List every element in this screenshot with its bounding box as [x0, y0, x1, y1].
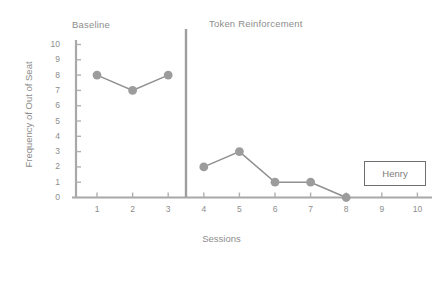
data-series	[93, 71, 351, 202]
y-tick-label: 7	[44, 86, 60, 95]
x-tick-label: 1	[89, 205, 105, 214]
data-point-marker	[342, 193, 351, 202]
y-tick-label: 3	[44, 147, 60, 156]
series-line	[204, 152, 346, 198]
x-tick-label: 5	[231, 205, 247, 214]
y-tick-label: 10	[44, 40, 60, 49]
x-tick-label: 7	[303, 205, 319, 214]
x-tick-label: 6	[267, 205, 283, 214]
y-tick-label: 5	[44, 117, 60, 126]
y-tick-label: 6	[44, 101, 60, 110]
x-tick-label: 8	[338, 205, 354, 214]
legend-label: Henry	[365, 162, 425, 185]
y-tick-label: 2	[44, 162, 60, 171]
y-tick-label: 0	[44, 193, 60, 202]
legend-box: Henry	[364, 161, 426, 186]
chart-container: Baseline Token Reinforcement Frequency o…	[0, 0, 443, 284]
y-tick-label: 9	[44, 55, 60, 64]
x-tick-label: 2	[125, 205, 141, 214]
data-point-marker	[235, 147, 244, 156]
data-point-marker	[199, 163, 208, 172]
y-tick-label: 1	[44, 178, 60, 187]
data-point-marker	[128, 86, 137, 95]
x-tick-label: 10	[409, 205, 425, 214]
data-point-marker	[93, 71, 102, 80]
data-point-marker	[271, 178, 280, 187]
x-tick-label: 3	[160, 205, 176, 214]
plot-area	[0, 0, 443, 284]
x-tick-label: 9	[374, 205, 390, 214]
data-point-marker	[164, 71, 173, 80]
x-tick-label: 4	[196, 205, 212, 214]
y-tick-label: 4	[44, 132, 60, 141]
y-tick-label: 8	[44, 71, 60, 80]
data-point-marker	[306, 178, 315, 187]
